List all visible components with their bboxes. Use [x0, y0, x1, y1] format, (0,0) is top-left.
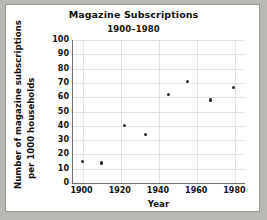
y-tick-label: 10 [45, 164, 69, 173]
chart-subtitle: 1900–1980 [6, 24, 261, 34]
y-tick-label: 30 [45, 135, 69, 144]
data-point [100, 161, 103, 164]
y-tick-label: 20 [45, 149, 69, 158]
y-tick-label: 70 [45, 78, 69, 87]
x-axis-tick-labels: 19001920194019601980 [72, 186, 247, 200]
x-tick-label: 1920 [100, 186, 140, 195]
data-point [167, 93, 170, 96]
y-axis-label: Number of magazine subscriptions per 100… [12, 31, 42, 191]
y-axis-tick-labels: 0102030405060708090100 [44, 40, 69, 183]
gridline-vertical [235, 40, 236, 183]
y-tick-label: 40 [45, 121, 69, 130]
gridline-vertical [121, 40, 122, 183]
data-point [232, 86, 235, 89]
x-tick-label: 1960 [176, 186, 216, 195]
gridline-vertical [159, 40, 160, 183]
y-tick-label: 60 [45, 92, 69, 101]
x-tick-label: 1900 [62, 186, 102, 195]
y-axis-label-line-1: Number of magazine subscriptions [13, 20, 23, 189]
y-tick-label: 100 [45, 35, 69, 44]
data-point [81, 160, 84, 163]
data-point [209, 98, 212, 101]
plot-area [72, 40, 245, 183]
data-point [144, 133, 147, 136]
x-axis-line [72, 183, 245, 184]
y-axis-label-line-2: per 1000 households [26, 78, 36, 179]
data-point [123, 124, 126, 127]
y-tick-label: 80 [45, 64, 69, 73]
chart-figure: Magazine Subscriptions 1900–1980 Number … [5, 4, 260, 212]
x-tick-label: 1940 [138, 186, 178, 195]
x-axis-label: Year [72, 199, 245, 209]
x-tick-label: 1980 [214, 186, 254, 195]
y-tick-label: 50 [45, 107, 69, 116]
y-tick-label: 90 [45, 49, 69, 58]
chart-title: Magazine Subscriptions [6, 9, 261, 20]
gridline-vertical [197, 40, 198, 183]
